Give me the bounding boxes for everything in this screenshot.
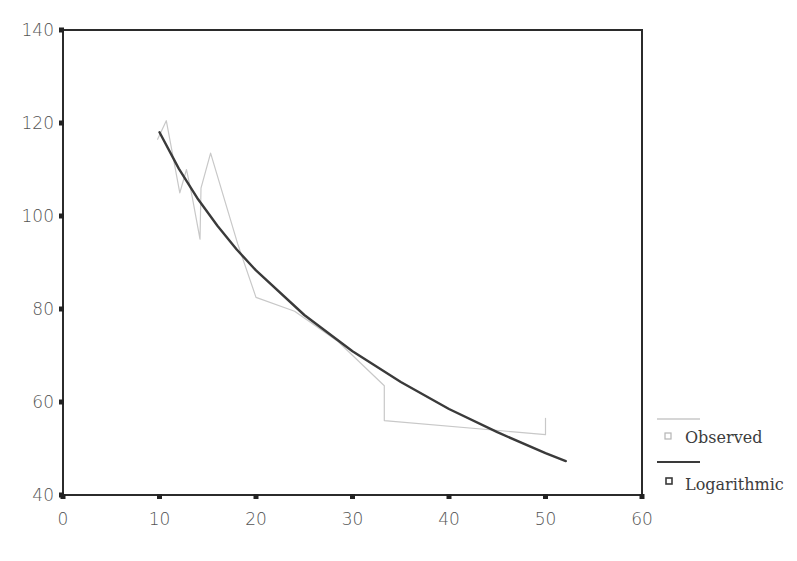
x-tick-label: 10 [149,509,171,529]
y-tick-mark [59,121,64,126]
x-tick-label: 50 [535,509,557,529]
y-tick-mark [59,28,64,33]
y-tick-label: 140 [22,20,54,40]
x-tick-label: 60 [631,509,653,529]
x-tick-label: 20 [245,509,267,529]
logarithmic-fit-chart: 0102030405060 406080100120140 Observed L… [0,0,797,561]
x-tick-mark [447,494,452,499]
x-tick-label: 30 [342,509,364,529]
legend: Observed Logarithmic [657,419,784,494]
plot-frame [63,30,642,495]
x-tick-mark [254,494,259,499]
x-tick-mark [640,494,645,499]
series-layer [158,121,566,461]
observed-line [158,121,546,435]
legend-observed-label: Observed [685,428,762,447]
x-tick-label: 40 [438,509,460,529]
legend-logarithmic-marker-icon [666,478,672,484]
y-axis: 406080100120140 [22,20,64,505]
legend-logarithmic-label: Logarithmic [685,475,784,494]
logarithmic-fit-line [160,132,566,461]
x-tick-mark [543,494,548,499]
x-tick-label: 0 [58,509,69,529]
y-tick-label: 120 [22,113,54,133]
x-tick-mark [157,494,162,499]
y-tick-label: 60 [32,392,54,412]
legend-observed-marker-icon [665,433,671,439]
x-axis: 0102030405060 [58,494,653,529]
plot-border [63,30,642,495]
y-tick-mark [59,307,64,312]
y-tick-mark [59,214,64,219]
y-tick-label: 80 [32,299,54,319]
y-tick-label: 40 [32,485,54,505]
y-tick-label: 100 [22,206,54,226]
y-tick-mark [59,493,64,498]
y-tick-mark [59,400,64,405]
x-tick-mark [350,494,355,499]
